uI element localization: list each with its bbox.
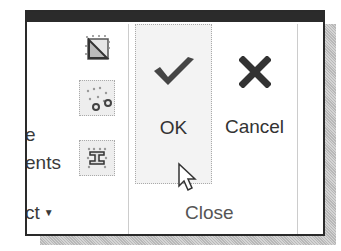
grid-diagonal-icon[interactable] [84,34,112,62]
group-separator [297,24,298,234]
close-group-label: Close [185,202,234,224]
group-label-select[interactable]: ct▼ [25,202,54,224]
cancel-button[interactable]: Cancel [212,24,297,184]
ribbon-panel: e ents ct▼ OK Cancel [25,10,325,236]
dropdown-arrow-icon[interactable]: ▼ [44,207,54,218]
title-bar [27,12,323,22]
scatter-points-icon[interactable] [79,80,115,116]
cancel-label: Cancel [212,116,297,138]
i-beam-grid-icon[interactable] [79,140,115,176]
checkmark-icon [152,53,196,89]
truncated-label-2[interactable]: ents [25,152,61,174]
ok-button[interactable]: OK [135,24,212,184]
group-separator [128,24,129,234]
x-mark-icon [239,56,271,88]
truncated-label-1: e [25,124,36,146]
mouse-pointer-icon [177,162,199,192]
ok-label: OK [136,117,211,139]
